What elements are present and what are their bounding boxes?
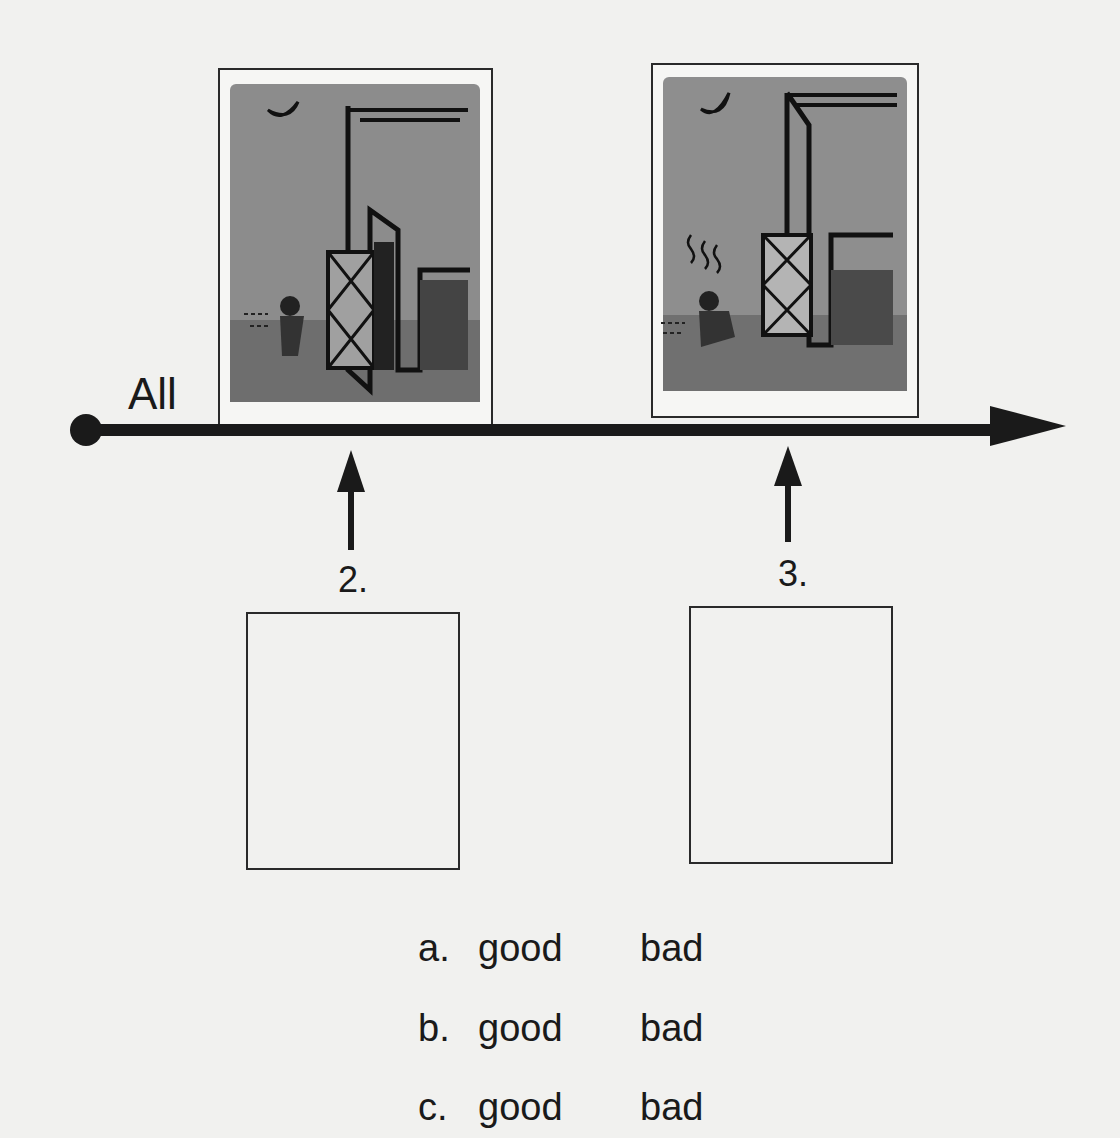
marker-label-3: 3. [778, 556, 808, 592]
answer-box-2[interactable] [246, 612, 460, 870]
barn-night-scene-open-door [220, 70, 491, 424]
option-row-c: c.goodbad [418, 1087, 703, 1127]
option-letter: b. [418, 1008, 478, 1048]
picture-frame-2 [651, 63, 919, 418]
answer-box-3[interactable] [689, 606, 893, 864]
option-good[interactable]: good [478, 928, 640, 968]
up-arrow-icon [773, 444, 803, 550]
option-bad[interactable]: bad [640, 1008, 703, 1048]
picture-frame-1 [218, 68, 493, 426]
option-row-a: a.goodbad [418, 928, 703, 968]
barn-night-scene-closed-door [653, 65, 917, 416]
option-bad[interactable]: bad [640, 1087, 703, 1127]
up-arrow-icon [336, 448, 366, 558]
option-bad[interactable]: bad [640, 928, 703, 968]
timeline-start-label: All [128, 372, 177, 416]
option-good[interactable]: good [478, 1008, 640, 1048]
marker-label-2: 2. [338, 562, 368, 598]
arrow-head-icon [990, 406, 1066, 446]
figure-icon [699, 291, 719, 311]
option-letter: c. [418, 1087, 478, 1127]
option-letter: a. [418, 928, 478, 968]
option-row-b: b.goodbad [418, 1008, 703, 1048]
figure-icon [280, 296, 300, 316]
option-good[interactable]: good [478, 1087, 640, 1127]
